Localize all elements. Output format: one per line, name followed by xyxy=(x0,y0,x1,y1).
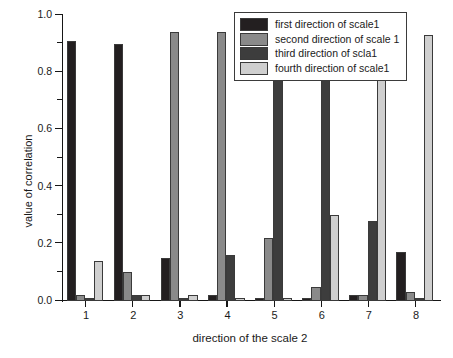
legend-label: second direction of scale 1 xyxy=(275,34,399,45)
bar xyxy=(114,44,123,301)
bar xyxy=(85,298,94,301)
x-tick xyxy=(179,301,180,307)
y-tick-label: 0.2 xyxy=(18,237,52,249)
legend-label: first direction of scale1 xyxy=(275,19,379,30)
bar xyxy=(311,287,320,301)
y-tick xyxy=(55,185,62,186)
bar xyxy=(141,295,150,301)
bar xyxy=(94,261,103,301)
x-tick xyxy=(132,301,133,307)
x-tick xyxy=(274,301,275,307)
bar xyxy=(368,221,377,301)
legend-label: third direction of scla1 xyxy=(275,48,377,59)
bar xyxy=(255,298,264,301)
legend-item: first direction of scale1 xyxy=(240,18,399,32)
x-axis-label: direction of the scale 2 xyxy=(60,332,440,344)
y-tick-label: 0.8 xyxy=(18,65,52,77)
bar xyxy=(406,292,415,301)
x-tick-label: 4 xyxy=(215,309,239,321)
bar-chart: value of correlation 0.00.20.40.60.81.0 … xyxy=(0,0,453,358)
bar xyxy=(132,295,141,301)
y-tick xyxy=(55,14,62,15)
x-tick xyxy=(415,301,416,307)
bar xyxy=(235,298,244,301)
x-tick xyxy=(85,301,86,307)
legend-swatch-icon xyxy=(240,33,268,46)
x-tick xyxy=(368,301,369,307)
bar xyxy=(330,215,339,301)
bar xyxy=(179,298,188,301)
y-tick-label: 0.4 xyxy=(18,180,52,192)
x-tick-label: 6 xyxy=(310,309,334,321)
bar xyxy=(415,298,424,301)
x-tick-label: 8 xyxy=(404,309,428,321)
bar xyxy=(424,35,433,301)
y-tick xyxy=(55,300,62,301)
x-tick xyxy=(226,301,227,307)
bar xyxy=(358,295,367,301)
y-tick-label: 1.0 xyxy=(18,8,52,20)
chart-legend: first direction of scale1second directio… xyxy=(234,12,407,81)
bar xyxy=(208,295,217,301)
bar xyxy=(217,32,226,301)
legend-swatch-icon xyxy=(240,47,268,60)
legend-item: fourth direction of scale1 xyxy=(240,61,399,75)
bar xyxy=(226,255,235,301)
x-tick-label: 2 xyxy=(121,309,145,321)
y-tick-minor xyxy=(57,99,62,100)
bar xyxy=(396,252,405,301)
x-tick-label: 3 xyxy=(168,309,192,321)
bar xyxy=(264,238,273,301)
bar xyxy=(170,32,179,301)
y-tick-minor xyxy=(57,271,62,272)
y-tick-minor xyxy=(57,157,62,158)
bar xyxy=(76,295,85,301)
legend-item: second direction of scale 1 xyxy=(240,32,399,46)
bar xyxy=(283,298,292,301)
x-tick xyxy=(321,301,322,307)
bar xyxy=(67,41,76,301)
legend-swatch-icon xyxy=(240,18,268,31)
y-tick-minor xyxy=(57,42,62,43)
y-tick xyxy=(55,242,62,243)
bar xyxy=(161,258,170,301)
legend-item: third direction of scla1 xyxy=(240,47,399,61)
y-tick-minor xyxy=(57,214,62,215)
bar xyxy=(188,295,197,301)
x-tick-label: 1 xyxy=(74,309,98,321)
y-tick xyxy=(55,71,62,72)
legend-label: fourth direction of scale1 xyxy=(275,63,389,74)
y-tick xyxy=(55,128,62,129)
x-tick-label: 5 xyxy=(263,309,287,321)
bar xyxy=(349,295,358,301)
y-tick-label: 0.0 xyxy=(18,294,52,306)
x-tick-label: 7 xyxy=(357,309,381,321)
y-tick-label: 0.6 xyxy=(18,122,52,134)
legend-swatch-icon xyxy=(240,62,268,75)
bar xyxy=(123,272,132,301)
bar xyxy=(302,298,311,301)
